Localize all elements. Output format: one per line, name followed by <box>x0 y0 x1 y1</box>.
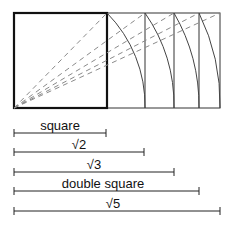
label-double-square: double square <box>62 176 144 191</box>
root-rectangles-diagram: square √2 √3 double square √5 <box>0 0 234 228</box>
arcs <box>107 13 220 108</box>
label-sqrt5: √5 <box>106 196 120 211</box>
arc-4 <box>199 13 220 108</box>
measure-labels: square √2 √3 double square √5 <box>40 118 144 211</box>
arc-3 <box>174 13 199 108</box>
diagonal-sqrt5 <box>14 13 220 108</box>
label-square: square <box>40 118 80 133</box>
diagonal-sqrt2 <box>14 13 145 108</box>
diagonal-sqrt3 <box>14 13 174 108</box>
label-sqrt3: √3 <box>87 157 101 172</box>
diagonals <box>14 13 220 108</box>
label-sqrt2: √2 <box>72 137 86 152</box>
